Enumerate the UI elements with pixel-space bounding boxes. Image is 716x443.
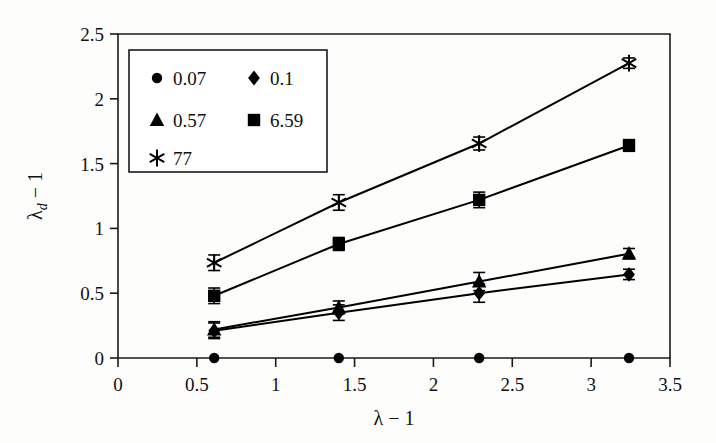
legend-item-label: 6.59: [270, 110, 303, 131]
x-tick-label: 3: [586, 374, 596, 395]
y-tick-label: 0.5: [80, 283, 104, 304]
scatter-plot: 00.511.522.500.511.522.533.5 0.070.10.57…: [0, 0, 716, 443]
chart-figure: 00.511.522.500.511.522.533.5 0.070.10.57…: [0, 0, 716, 443]
series-trend-line: [214, 254, 629, 330]
y-tick-label: 0: [95, 348, 105, 369]
marker-square: [623, 139, 635, 151]
y-tick-label: 2: [95, 89, 105, 110]
legend-item-label: 0.07: [173, 68, 206, 89]
marker-circle: [334, 353, 344, 363]
series-0-57: [207, 246, 636, 337]
series-0-1: [208, 267, 635, 339]
svg-text:λd − 1: λd − 1: [24, 172, 50, 220]
x-tick-label: 0: [113, 374, 123, 395]
marker-asterisk: [332, 194, 347, 211]
marker-asterisk: [207, 254, 222, 271]
marker-square: [248, 114, 260, 126]
y-tick-label: 1: [95, 218, 105, 239]
series-trend-line: [214, 274, 629, 330]
x-tick-label: 2: [429, 374, 439, 395]
marker-circle: [624, 353, 634, 363]
marker-square: [473, 194, 485, 206]
marker-circle: [152, 73, 162, 83]
legend-item-label: 77: [173, 148, 192, 169]
marker-square: [208, 290, 220, 302]
x-tick-label: 3.5: [658, 374, 682, 395]
x-axis-title: λ − 1: [374, 407, 415, 429]
y-tick-label: 2.5: [80, 24, 104, 45]
x-tick-label: 2.5: [500, 374, 524, 395]
legend-item-label: 0.1: [270, 68, 294, 89]
x-tick-label: 1: [271, 374, 281, 395]
y-tick-label: 1.5: [80, 154, 104, 175]
y-axis-title: λd − 1: [24, 172, 50, 220]
x-tick-label: 0.5: [185, 374, 209, 395]
marker-square: [333, 238, 345, 250]
marker-circle: [474, 353, 484, 363]
legend-item-label: 0.57: [173, 110, 206, 131]
marker-circle: [209, 353, 219, 363]
chart-legend: 0.070.10.576.5977: [129, 50, 327, 172]
x-tick-label: 1.5: [343, 374, 367, 395]
